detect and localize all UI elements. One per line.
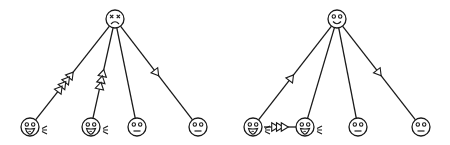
eye-icon (423, 123, 426, 126)
eye-icon (353, 123, 356, 126)
edge-root-to-leaf-1 (308, 28, 335, 119)
edge-root-to-leaf-1 (93, 28, 113, 118)
arrowhead-icon (54, 86, 62, 94)
leaf-face-3 (189, 118, 207, 136)
leaf-face-3 (412, 118, 430, 136)
root-face (328, 10, 346, 28)
tree-diagrams (0, 0, 450, 145)
eye-icon (193, 123, 196, 126)
edge-root-to-leaf-3 (120, 26, 192, 120)
arrowhead-icon (374, 68, 382, 76)
arrowhead-icon (281, 123, 288, 131)
leaf-face-1 (82, 118, 108, 136)
laughter-lines-icon (317, 126, 322, 134)
face-outline (412, 118, 430, 136)
face-outline (189, 118, 207, 136)
eye-icon (93, 123, 96, 126)
leaf-face-0 (21, 118, 47, 136)
face-outline (106, 10, 124, 28)
diagram-canvas (0, 0, 450, 145)
eye-icon (25, 123, 28, 126)
arrowhead-icon (286, 75, 294, 83)
eye-icon (332, 15, 335, 18)
eye-icon (255, 123, 258, 126)
right-diagram (244, 10, 430, 136)
eye-icon (139, 123, 142, 126)
arrowhead-icon (151, 68, 159, 76)
left-diagram (21, 10, 207, 136)
leaf-face-1 (296, 118, 322, 136)
eye-icon (300, 123, 303, 126)
face-outline (128, 118, 146, 136)
eye-icon (132, 123, 135, 126)
face-outline (328, 10, 346, 28)
edge-line (308, 28, 335, 119)
leaf-face-2 (349, 118, 367, 136)
eye-icon (32, 123, 35, 126)
eye-icon (248, 123, 251, 126)
eye-icon (200, 123, 203, 126)
leaf-face-2 (128, 118, 146, 136)
edge-root-to-leaf-0 (36, 26, 110, 120)
eye-icon (86, 123, 89, 126)
laughter-lines-icon (42, 126, 47, 134)
face-outline (349, 118, 367, 136)
eye-icon (360, 123, 363, 126)
root-face (106, 10, 124, 28)
eye-icon (416, 123, 419, 126)
eye-icon (339, 15, 342, 18)
eye-icon (307, 123, 310, 126)
laughter-lines-icon (103, 126, 108, 134)
